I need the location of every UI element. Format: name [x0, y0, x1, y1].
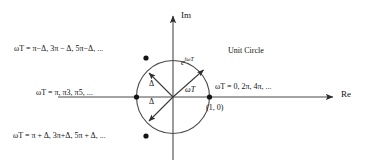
point-label-left: ωT = π, π3, π5, ...: [36, 89, 93, 98]
figure-canvas: [0, 0, 366, 167]
exponential-exponent: jωT: [185, 56, 194, 62]
unit-circle-label: Unit Circle: [228, 47, 264, 56]
unit-circle-figure: Im Re Unit Circle ejωT ωT Δ Δ ωT = π−Δ, …: [0, 0, 366, 167]
point-label-right: ωT = 0, 2π, 4π, ...: [215, 83, 272, 92]
delta-label-upper: Δ: [149, 80, 154, 89]
point-label-upper-left: ωT = π−Δ, 3π − Δ, 5π−Δ, ...: [14, 45, 103, 54]
point-left: [134, 94, 139, 99]
imaginary-axis-label: Im: [181, 11, 191, 21]
point-lower-left: [143, 133, 148, 138]
point-upper-left: [143, 55, 148, 60]
angle-label-omega-t: ωT: [185, 86, 195, 95]
delta-label-lower: Δ: [149, 98, 154, 107]
point-coordinate-label: (1, 0): [206, 104, 223, 113]
point-right: [207, 94, 212, 99]
point-label-lower-left: ωT = π + Δ, 3π+Δ, 5π + Δ, ...: [13, 132, 106, 141]
exponential-label: ejωT: [181, 56, 194, 67]
real-axis-label: Re: [341, 90, 351, 100]
